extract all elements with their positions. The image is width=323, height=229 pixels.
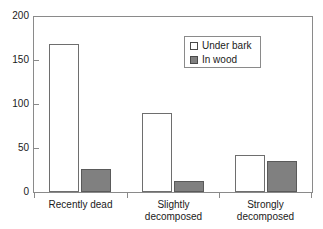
x-tick-mark <box>311 193 312 198</box>
gray-square-icon <box>190 56 198 64</box>
bar-chart: 050100150200 Recently deadSlightly decom… <box>0 0 323 229</box>
x-tick-mark <box>219 193 220 198</box>
bar-in-wood <box>81 169 111 192</box>
y-tick-mark <box>34 16 39 17</box>
x-category-label: Strongly decomposed <box>219 199 312 223</box>
y-tick-label: 50 <box>1 143 29 153</box>
y-tick-mark <box>34 148 39 149</box>
y-tick-label: 150 <box>1 55 29 65</box>
bar-in-wood <box>174 181 204 192</box>
y-tick-mark <box>34 192 39 193</box>
y-axis: 050100150200 <box>0 0 29 229</box>
y-tick-label: 0 <box>1 187 29 197</box>
legend-label-in-wood: In wood <box>202 55 237 65</box>
y-tick-mark <box>34 104 39 105</box>
legend: Under bark In wood <box>184 36 261 68</box>
bar-under-bark <box>142 113 172 192</box>
x-category-label: Slightly decomposed <box>127 199 220 223</box>
y-tick-label: 100 <box>1 99 29 109</box>
white-square-icon <box>190 42 198 50</box>
x-tick-mark <box>127 193 128 198</box>
bar-in-wood <box>267 161 297 192</box>
legend-item-in-wood: In wood <box>190 54 255 66</box>
bar-under-bark <box>235 155 265 192</box>
y-tick-label: 200 <box>1 11 29 21</box>
legend-item-under-bark: Under bark <box>190 40 255 52</box>
bar-under-bark <box>49 44 79 192</box>
legend-label-under-bark: Under bark <box>202 41 251 51</box>
x-category-label: Recently dead <box>34 199 127 211</box>
x-tick-mark <box>34 193 35 198</box>
y-tick-mark <box>34 60 39 61</box>
